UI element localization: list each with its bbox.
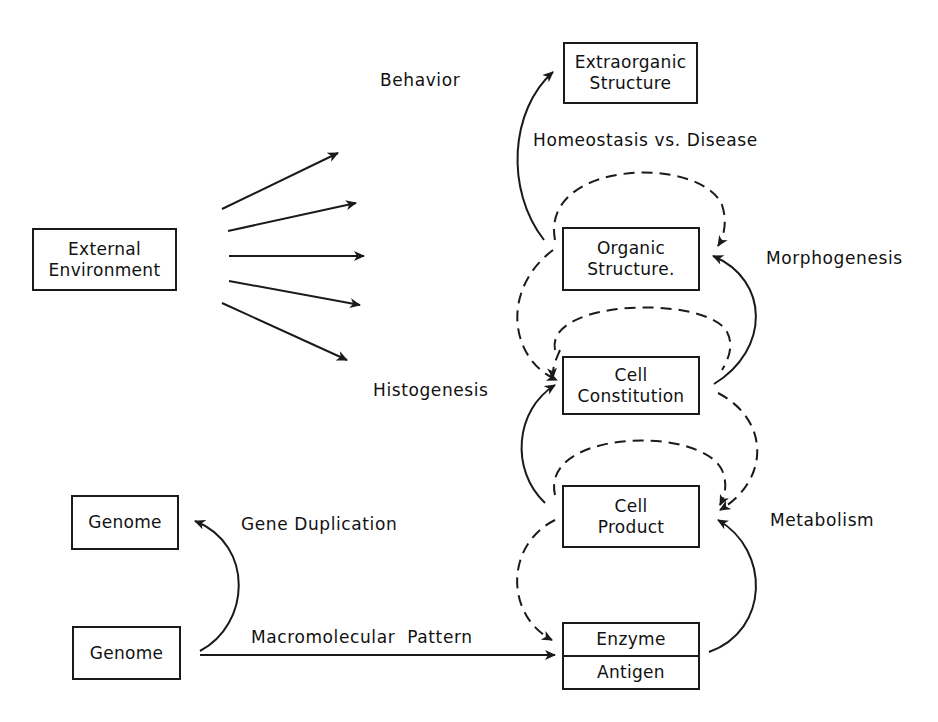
- enzyme-cell: Enzyme: [564, 624, 698, 655]
- external-env-line1: External: [68, 239, 141, 260]
- metabolism-arrow: [709, 520, 756, 652]
- extraorganic-line1: Extraorganic: [575, 52, 687, 73]
- histogenesis-arrow: [522, 385, 555, 503]
- genome-top-box: Genome: [71, 495, 179, 550]
- cell-product-line1: Cell: [615, 496, 648, 517]
- cell-constitution-line1: Cell: [615, 365, 648, 386]
- extraorganic-structure-box: Extraorganic Structure: [563, 42, 698, 104]
- antigen-cell: Antigen: [564, 655, 698, 688]
- genome-bottom-box: Genome: [72, 626, 181, 680]
- enzyme-antigen-box: Enzyme Antigen: [562, 622, 700, 690]
- external-environment-box: External Environment: [32, 228, 177, 291]
- dashed-organic-to-cell: [517, 250, 557, 380]
- external-env-line2: Environment: [49, 260, 161, 281]
- macromolecular-pattern-label: Macromolecular Pattern: [251, 627, 473, 647]
- morphogenesis-arrow: [713, 256, 756, 384]
- genome-bottom-label: Genome: [90, 643, 164, 664]
- env-arrow-4: [229, 281, 360, 305]
- gene-duplication-label: Gene Duplication: [241, 514, 397, 534]
- genome-top-label: Genome: [88, 512, 162, 533]
- metabolism-label: Metabolism: [770, 510, 874, 530]
- diagram-connectors: [0, 0, 938, 722]
- cell-constitution-box: Cell Constitution: [562, 356, 700, 415]
- dashed-product-to-enzyme: [517, 520, 555, 640]
- organic-line2: Structure.: [587, 259, 675, 280]
- env-arrow-5: [222, 303, 347, 360]
- env-arrow-2: [228, 203, 356, 231]
- homeostasis-label: Homeostasis vs. Disease: [533, 130, 758, 150]
- homeostasis-arrow: [518, 72, 553, 240]
- morphogenesis-label: Morphogenesis: [766, 248, 903, 268]
- env-arrow-1: [222, 153, 338, 209]
- extraorganic-line2: Structure: [590, 73, 672, 94]
- dashed-constitution-to-product: [718, 393, 757, 510]
- behavior-label: Behavior: [380, 70, 460, 90]
- histogenesis-label: Histogenesis: [373, 380, 489, 400]
- organic-structure-box: Organic Structure.: [562, 227, 700, 291]
- cell-constitution-line2: Constitution: [578, 386, 685, 407]
- cell-product-box: Cell Product: [562, 485, 700, 548]
- cell-product-line2: Product: [598, 517, 665, 538]
- gene-duplication-arrow: [195, 521, 239, 651]
- organic-line1: Organic: [597, 238, 665, 259]
